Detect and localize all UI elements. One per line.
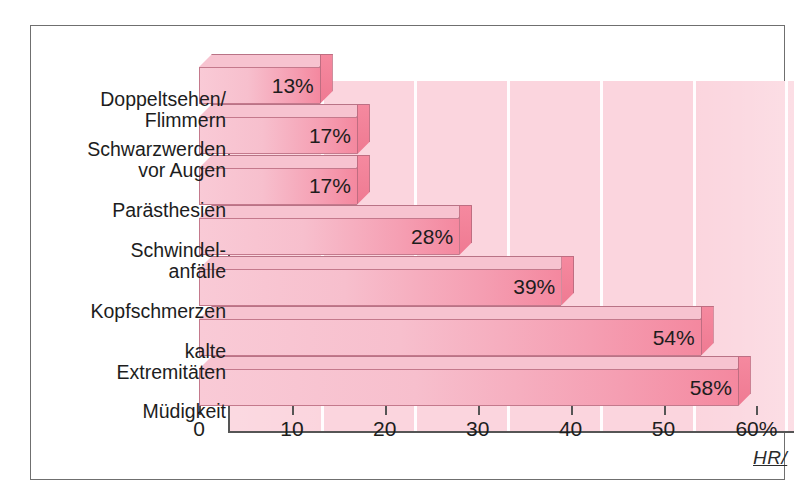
- bar-6: 58%: [199, 356, 761, 406]
- x-tick-30: [478, 406, 480, 415]
- x-tick-label-50: 50: [652, 417, 675, 441]
- category-label-4: Kopfschmerzen: [46, 301, 226, 322]
- hr-signature: HR/: [753, 447, 787, 469]
- bar-3: 28%: [199, 205, 482, 255]
- bar-top-face-3: [199, 205, 472, 218]
- bar-end-cap-3: [459, 205, 472, 255]
- bar-end-cap-2: [357, 155, 370, 205]
- category-label-1: Schwarzwerden vor Augen: [46, 139, 226, 181]
- category-label-5: kalte Extremitäten: [46, 341, 226, 383]
- bar-end-cap-6: [738, 356, 751, 406]
- category-label-6: Müdigkeit: [46, 401, 226, 422]
- x-tick-60%: [756, 406, 758, 415]
- bar-1: 17%: [199, 104, 380, 154]
- bar-4: 39%: [199, 256, 584, 306]
- bar-5: 54%: [199, 306, 724, 356]
- bar-value-label-5: 54%: [653, 326, 695, 350]
- category-label-3: Schwindel- anfälle: [46, 240, 226, 282]
- bar-value-label-2: 17%: [309, 174, 351, 198]
- gridline-60: [785, 81, 788, 431]
- bar-top-face-6: [199, 356, 751, 369]
- x-tick-20: [385, 406, 387, 415]
- x-axis-line: [228, 431, 794, 433]
- bar-top-face-4: [199, 256, 574, 269]
- x-tick-label-20: 20: [373, 417, 396, 441]
- bar-front-face-6: [199, 369, 738, 406]
- x-tick-50: [664, 406, 666, 415]
- bar-end-cap-5: [701, 306, 714, 356]
- category-labels-group: Doppeltsehen/ FlimmernSchwarzwerden vor …: [41, 26, 226, 503]
- bar-2: 17%: [199, 155, 380, 205]
- bar-front-face-4: [199, 269, 561, 306]
- bar-value-label-6: 58%: [690, 376, 732, 400]
- figure-frame: 0102030405060% 13%17%17%28%39%54%58% Dop…: [30, 25, 785, 480]
- bar-top-face-5: [199, 306, 714, 319]
- bar-value-label-1: 17%: [309, 124, 351, 148]
- bar-end-cap-0: [320, 54, 333, 104]
- category-label-0: Doppeltsehen/ Flimmern: [46, 89, 226, 131]
- bar-end-cap-1: [357, 104, 370, 154]
- x-tick-10: [292, 406, 294, 415]
- bar-front-face-5: [199, 319, 701, 356]
- x-tick-label-10: 10: [280, 417, 303, 441]
- bar-value-label-4: 39%: [513, 275, 555, 299]
- bar-value-label-3: 28%: [411, 225, 453, 249]
- x-tick-label-60%: 60%: [735, 417, 777, 441]
- bar-end-cap-4: [561, 256, 574, 306]
- x-tick-label-40: 40: [559, 417, 582, 441]
- x-tick-40: [571, 406, 573, 415]
- category-label-2: Parästhesien: [46, 200, 226, 221]
- x-tick-label-30: 30: [466, 417, 489, 441]
- chart-page: 0102030405060% 13%17%17%28%39%54%58% Dop…: [0, 0, 804, 503]
- bar-value-label-0: 13%: [272, 74, 314, 98]
